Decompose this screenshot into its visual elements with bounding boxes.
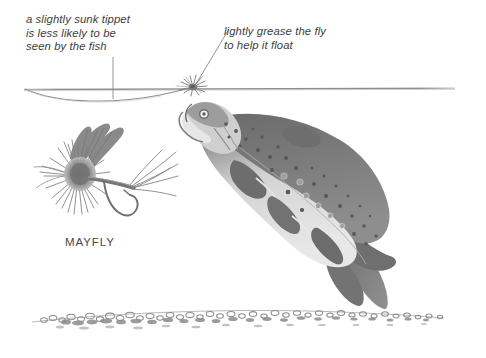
waterline	[24, 88, 455, 90]
annotation-sunk-tippet: a slightly sunk tippet is less likely to…	[26, 13, 130, 54]
mayfly-tails	[130, 150, 178, 196]
leaping-brown-trout	[179, 102, 396, 309]
dry-fly	[176, 75, 207, 96]
annotation-grease-fly: lightly grease the fly to help it float	[224, 25, 326, 52]
diagram-canvas: a slightly sunk tippet is less likely to…	[0, 0, 486, 358]
gravel-bed	[32, 310, 444, 329]
label-mayfly: MAYFLY	[65, 236, 115, 248]
mayfly-fly-illustration	[34, 123, 178, 215]
